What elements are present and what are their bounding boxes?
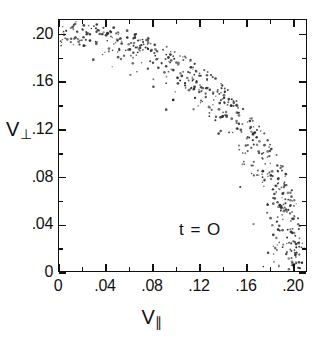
scatter-point xyxy=(193,85,196,88)
scatter-point xyxy=(179,79,181,81)
scatter-point xyxy=(173,58,175,60)
scatter-point xyxy=(217,89,219,91)
scatter-point xyxy=(266,203,269,206)
x-tick-major xyxy=(58,264,60,271)
scatter-point xyxy=(182,59,184,61)
scatter-point xyxy=(217,132,220,135)
scatter-point xyxy=(232,132,234,134)
y-tick-minor-right xyxy=(302,248,306,250)
scatter-point xyxy=(137,51,139,53)
scatter-point xyxy=(182,56,184,58)
scatter-point xyxy=(290,242,292,244)
scatter-point xyxy=(219,116,222,119)
scatter-point xyxy=(277,177,279,179)
scatter-point xyxy=(260,130,261,131)
scatter-point xyxy=(245,144,247,146)
scatter-point xyxy=(281,214,283,216)
scatter-point xyxy=(176,77,179,80)
scatter-point xyxy=(286,236,288,238)
scatter-point xyxy=(81,39,83,41)
scatter-point xyxy=(72,28,74,30)
scatter-point xyxy=(211,109,213,111)
scatter-point xyxy=(153,44,156,47)
scatter-point xyxy=(85,39,87,41)
scatter-point xyxy=(218,108,221,111)
scatter-point xyxy=(290,250,292,252)
y-tick-major xyxy=(59,225,66,227)
scatter-point xyxy=(212,91,215,94)
scatter-point xyxy=(170,59,173,62)
scatter-point xyxy=(165,54,167,56)
scatter-point xyxy=(247,121,249,123)
scatter-point xyxy=(185,87,187,89)
scatter-point xyxy=(227,104,229,106)
scatter-point xyxy=(225,116,227,118)
scatter-point xyxy=(207,71,209,73)
x-tick-major xyxy=(152,264,154,271)
scatter-point xyxy=(237,107,239,109)
scatter-point xyxy=(274,247,277,250)
scatter-point xyxy=(223,97,225,99)
x-tick-major-top xyxy=(246,20,248,27)
scatter-point xyxy=(110,35,112,37)
scatter-point xyxy=(112,66,113,67)
scatter-point xyxy=(253,126,255,128)
scatter-point xyxy=(88,25,90,27)
y-tick-major xyxy=(59,34,66,36)
y-tick-major-right xyxy=(299,177,306,179)
scatter-point xyxy=(177,62,180,65)
scatter-point xyxy=(289,228,291,230)
scatter-point xyxy=(191,77,192,78)
y-tick-major xyxy=(59,81,66,83)
scatter-point xyxy=(263,144,266,147)
x-tick-label: .20 xyxy=(282,277,303,295)
scatter-point xyxy=(103,31,105,33)
scatter-point xyxy=(220,83,222,85)
scatter-point xyxy=(239,128,242,131)
scatter-point xyxy=(272,233,275,236)
scatter-point xyxy=(220,92,222,94)
scatter-point xyxy=(271,224,273,227)
scatter-point xyxy=(112,50,114,52)
scatter-point xyxy=(267,175,269,177)
scatter-point xyxy=(268,171,270,173)
scatter-point xyxy=(101,33,103,35)
scatter-point xyxy=(104,51,106,53)
scatter-point xyxy=(209,112,211,114)
scatter-point xyxy=(247,136,249,138)
scatter-point xyxy=(200,86,203,89)
scatter-point xyxy=(108,33,110,35)
scatter-point xyxy=(294,249,296,251)
x-tick-major xyxy=(293,264,295,271)
scatter-point xyxy=(147,48,149,50)
scatter-point xyxy=(82,36,85,39)
scatter-point xyxy=(293,241,295,243)
scatter-point xyxy=(279,230,281,232)
scatter-point xyxy=(232,101,235,104)
scatter-point xyxy=(71,26,74,29)
scatter-point xyxy=(298,246,300,248)
scatter-point xyxy=(152,85,155,88)
scatter-point xyxy=(238,144,240,146)
scatter-point xyxy=(264,163,266,165)
scatter-point xyxy=(169,53,172,56)
scatter-point xyxy=(286,184,288,186)
scatter-point xyxy=(267,252,269,254)
scatter-figure: V⊥ V∥ t = O 0.04.08.12.16.200.04.08.12.1… xyxy=(0,0,321,338)
scatter-point xyxy=(184,82,186,84)
scatter-point xyxy=(112,37,113,38)
scatter-point xyxy=(242,163,244,165)
x-tick-minor xyxy=(129,267,131,271)
scatter-point xyxy=(206,74,209,77)
scatter-point xyxy=(120,42,123,45)
scatter-point xyxy=(297,242,299,244)
scatter-point xyxy=(192,80,194,82)
x-tick-label: .04 xyxy=(94,277,115,295)
scatter-point xyxy=(188,80,190,82)
scatter-point xyxy=(287,199,289,201)
scatter-point xyxy=(64,37,66,39)
scatter-point xyxy=(196,81,198,83)
scatter-point xyxy=(219,130,221,133)
y-tick-major xyxy=(59,129,66,131)
scatter-point xyxy=(280,210,282,212)
